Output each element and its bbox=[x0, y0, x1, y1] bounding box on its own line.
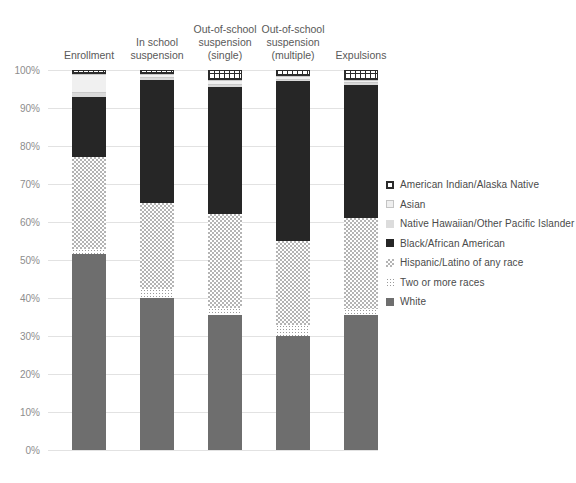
legend-swatch-two-icon bbox=[386, 278, 394, 286]
bar-4[interactable] bbox=[276, 70, 310, 450]
legend-swatch-nhpi-icon bbox=[386, 220, 394, 228]
bar-5[interactable] bbox=[344, 70, 378, 450]
bar-segment-two[interactable] bbox=[140, 288, 174, 299]
legend-label: American Indian/Alaska Native bbox=[400, 179, 539, 190]
y-axis-tick-label: 80% bbox=[20, 141, 40, 152]
y-axis-tick-label: 70% bbox=[20, 179, 40, 190]
x-axis-label-5: Expulsions bbox=[319, 49, 403, 62]
bar-segment-nhpi[interactable] bbox=[344, 83, 378, 85]
bar-segment-asian[interactable] bbox=[72, 74, 106, 93]
bar-segment-white[interactable] bbox=[140, 298, 174, 450]
bar-segment-nhpi[interactable] bbox=[276, 80, 310, 82]
legend-item-nhpi[interactable]: Native Hawaiian/Other Pacific Islander bbox=[386, 214, 571, 234]
bar-segment-two[interactable] bbox=[344, 308, 378, 315]
bar-segment-black[interactable] bbox=[208, 87, 242, 214]
bar-segment-two[interactable] bbox=[208, 307, 242, 316]
bar-segment-asian[interactable] bbox=[208, 80, 242, 86]
bar-segment-black[interactable] bbox=[276, 81, 310, 241]
bar-2[interactable] bbox=[140, 70, 174, 450]
bar-segment-hispanic[interactable] bbox=[140, 203, 174, 289]
legend-swatch-hispanic-icon bbox=[386, 259, 394, 267]
stacked-bar-chart: 0%10%20%30%40%50%60%70%80%90%100% Enroll… bbox=[0, 0, 576, 483]
bar-segment-nhpi[interactable] bbox=[72, 93, 106, 97]
y-axis: 0%10%20%30%40%50%60%70%80%90%100% bbox=[0, 70, 44, 450]
bar-segment-asian[interactable] bbox=[344, 80, 378, 84]
bar-segment-hispanic[interactable] bbox=[208, 214, 242, 307]
bar-segment-white[interactable] bbox=[208, 315, 242, 450]
bar-segment-hispanic[interactable] bbox=[344, 218, 378, 309]
legend-label: Two or more races bbox=[400, 277, 485, 288]
bar-segment-white[interactable] bbox=[344, 315, 378, 450]
bar-segment-white[interactable] bbox=[72, 254, 106, 450]
legend-item-white[interactable]: White bbox=[386, 292, 571, 312]
legend-item-amind[interactable]: American Indian/Alaska Native bbox=[386, 175, 571, 195]
legend-swatch-amind-icon bbox=[386, 181, 394, 189]
bar-segment-nhpi[interactable] bbox=[208, 85, 242, 87]
legend-swatch-black-icon bbox=[386, 239, 394, 247]
bar-segment-amind[interactable] bbox=[276, 70, 310, 76]
legend-label: Hispanic/Latino of any race bbox=[400, 257, 523, 268]
legend-swatch-asian-icon bbox=[386, 200, 394, 208]
y-axis-tick-label: 40% bbox=[20, 293, 40, 304]
y-axis-tick-label: 10% bbox=[20, 407, 40, 418]
legend-label: White bbox=[400, 296, 426, 307]
y-axis-tick-label: 20% bbox=[20, 369, 40, 380]
y-axis-tick-label: 90% bbox=[20, 103, 40, 114]
legend-swatch-white-icon bbox=[386, 298, 394, 306]
y-axis-tick-label: 0% bbox=[26, 445, 40, 456]
legend-label: Black/African American bbox=[400, 238, 505, 249]
legend-item-two[interactable]: Two or more races bbox=[386, 273, 571, 293]
legend-item-asian[interactable]: Asian bbox=[386, 195, 571, 215]
plot-area bbox=[48, 70, 378, 450]
bar-segment-nhpi[interactable] bbox=[140, 78, 174, 80]
y-axis-tick-label: 100% bbox=[14, 65, 40, 76]
legend-label: Native Hawaiian/Other Pacific Islander bbox=[400, 218, 574, 229]
y-axis-tick-label: 30% bbox=[20, 331, 40, 342]
legend-item-black[interactable]: Black/African American bbox=[386, 234, 571, 254]
bar-segment-amind[interactable] bbox=[140, 70, 174, 74]
bar-segment-black[interactable] bbox=[344, 85, 378, 218]
gridline bbox=[48, 450, 378, 451]
bar-segment-black[interactable] bbox=[72, 97, 106, 158]
bar-1[interactable] bbox=[72, 70, 106, 450]
chart-legend: American Indian/Alaska NativeAsianNative… bbox=[386, 175, 571, 312]
legend-item-hispanic[interactable]: Hispanic/Latino of any race bbox=[386, 253, 571, 273]
bar-segment-amind[interactable] bbox=[72, 70, 106, 74]
y-axis-tick-label: 50% bbox=[20, 255, 40, 266]
y-axis-tick-label: 60% bbox=[20, 217, 40, 228]
bar-segment-asian[interactable] bbox=[276, 76, 310, 80]
bar-3[interactable] bbox=[208, 70, 242, 450]
bar-segment-black[interactable] bbox=[140, 80, 174, 204]
bar-segment-two[interactable] bbox=[276, 324, 310, 336]
bar-segment-amind[interactable] bbox=[344, 70, 378, 80]
bar-segment-two[interactable] bbox=[72, 248, 106, 255]
bar-segment-hispanic[interactable] bbox=[72, 157, 106, 248]
bar-segment-white[interactable] bbox=[276, 336, 310, 450]
legend-label: Asian bbox=[400, 199, 426, 210]
bar-segment-amind[interactable] bbox=[208, 70, 242, 80]
bar-segment-hispanic[interactable] bbox=[276, 241, 310, 325]
bar-segment-asian[interactable] bbox=[140, 74, 174, 78]
